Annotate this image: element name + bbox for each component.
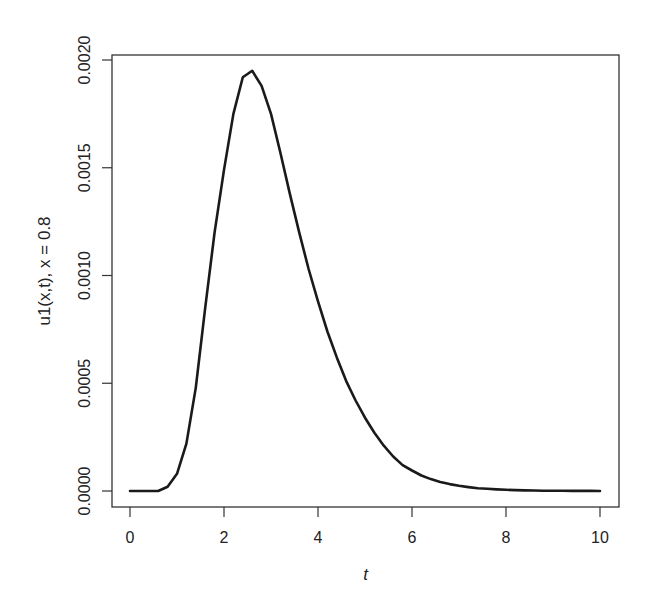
x-tick-label: 0: [126, 529, 135, 546]
x-axis: 0246810: [126, 507, 609, 546]
x-axis-title: t: [363, 565, 369, 584]
x-tick-label: 4: [314, 529, 323, 546]
y-axis: 0.00000.00050.00100.00150.0020: [76, 35, 112, 515]
x-tick-label: 8: [502, 529, 511, 546]
y-tick-label: 0.0005: [76, 359, 93, 408]
x-tick-label: 10: [591, 529, 609, 546]
line-chart: 0246810 0.00000.00050.00100.00150.0020 t…: [0, 0, 647, 608]
y-tick-label: 0.0010: [76, 251, 93, 300]
x-tick-label: 2: [220, 529, 229, 546]
y-tick-label: 0.0000: [76, 466, 93, 515]
y-axis-title: u1(x,t), x = 0.8: [35, 216, 54, 325]
y-tick-label: 0.0020: [76, 35, 93, 84]
x-tick-label: 6: [408, 529, 417, 546]
y-tick-label: 0.0015: [76, 143, 93, 192]
data-line: [130, 71, 600, 491]
